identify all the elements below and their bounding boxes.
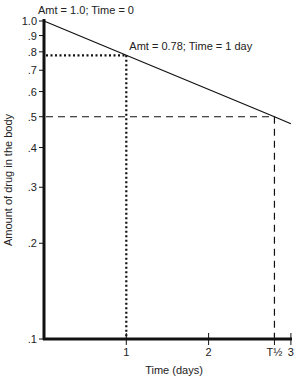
annotations: Amt = 1.0; Time = 0Amt = 0.78; Time = 1 … (38, 4, 253, 52)
y-tick-label: .6 (28, 86, 37, 98)
annotation-day1: Amt = 0.78; Time = 1 day (129, 40, 252, 52)
y-tick-label: 1.0 (22, 15, 37, 27)
decay-chart: 1.0.9.8.7.6.5.4.3.2.1 12T½3 Amt = 1.0; T… (0, 0, 297, 380)
y-tick-label: .8 (28, 46, 37, 58)
x-axis-ticks: 12T½3 (123, 333, 294, 358)
annotation-start: Amt = 1.0; Time = 0 (38, 4, 134, 16)
y-tick-label: .4 (28, 142, 37, 154)
x-tick-label: 1 (123, 346, 129, 358)
x-axis-title: Time (days) (145, 364, 203, 376)
y-tick-label: .9 (28, 30, 37, 42)
data-series (44, 21, 291, 124)
y-tick-label: .3 (28, 181, 37, 193)
x-tick-label: T½ (266, 346, 282, 358)
decay-line (44, 21, 291, 124)
y-tick-label: .7 (28, 64, 37, 76)
x-tick-label: 3 (288, 346, 294, 358)
axes (43, 19, 292, 340)
y-axis-ticks: 1.0.9.8.7.6.5.4.3.2.1 (22, 15, 44, 345)
reference-lines (46, 55, 274, 337)
y-axis-title: Amount of drug in the body (2, 113, 14, 246)
y-tick-label: .2 (28, 237, 37, 249)
x-tick-label: 2 (206, 346, 212, 358)
y-tick-label: .5 (28, 111, 37, 123)
y-tick-label: .1 (28, 333, 37, 345)
